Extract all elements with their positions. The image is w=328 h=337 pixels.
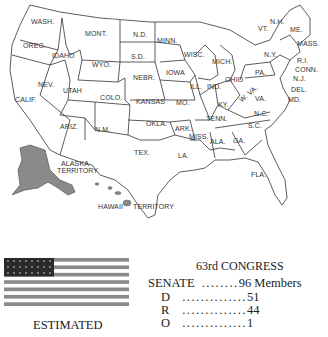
estimated-caption: ESTIMATED bbox=[33, 318, 102, 333]
label-conn: CONN. bbox=[295, 66, 318, 74]
senate-row-o: O ..............1 bbox=[161, 316, 253, 331]
label-mass: MASS. bbox=[297, 40, 319, 48]
label-md: MD. bbox=[288, 96, 301, 104]
label-fla: FLA. bbox=[251, 171, 266, 179]
label-kansas: KANSAS bbox=[136, 98, 165, 106]
label-mo: MO. bbox=[176, 99, 190, 107]
label-hawaii-territory: TERRITORY bbox=[133, 203, 174, 211]
label-pa: PA. bbox=[255, 69, 266, 77]
senate-label: SENATE bbox=[148, 276, 195, 290]
label-la: LA. bbox=[178, 152, 189, 160]
label-mich: MICH. bbox=[212, 58, 232, 66]
label-ill: ILL. bbox=[190, 83, 202, 91]
senate-value: 96 Members bbox=[239, 276, 302, 290]
label-ariz: ARIZ. bbox=[60, 123, 78, 131]
party-value: 1 bbox=[247, 316, 253, 330]
party-value: 51 bbox=[247, 290, 260, 304]
label-wash: WASH. bbox=[31, 18, 54, 26]
dot-leader: .............. bbox=[182, 303, 247, 317]
us-flag-48-stars bbox=[4, 258, 129, 306]
label-nh: N.H. bbox=[270, 18, 284, 26]
label-nd: N.D. bbox=[133, 31, 147, 39]
label-ind: IND. bbox=[207, 83, 221, 91]
label-mont: MONT. bbox=[85, 30, 107, 38]
senate-total: SENATE ........96 Members bbox=[148, 276, 302, 291]
label-iowa: IOWA bbox=[166, 69, 185, 77]
flag-canton bbox=[4, 258, 54, 277]
label-ark: ARK. bbox=[175, 125, 192, 133]
label-ny: N.Y. bbox=[264, 51, 277, 59]
label-va: VA. bbox=[255, 95, 266, 103]
dot-leader: ........ bbox=[202, 276, 239, 290]
label-ky: KY. bbox=[218, 101, 229, 109]
label-nev: NEV. bbox=[38, 81, 54, 89]
label-wyo: WYO. bbox=[92, 61, 111, 69]
label-minn: MINN. bbox=[157, 37, 177, 45]
party-value: 44 bbox=[247, 303, 260, 317]
label-ga: GA. bbox=[233, 137, 245, 145]
label-nj: N.J. bbox=[293, 75, 306, 83]
label-okla: OKLA. bbox=[146, 120, 167, 128]
label-idaho: IDAHO bbox=[52, 52, 75, 60]
label-me: ME. bbox=[290, 26, 303, 34]
label-del: DEL. bbox=[291, 86, 307, 94]
label-sc: S.C. bbox=[248, 122, 262, 130]
label-oreg: OREG. bbox=[23, 42, 46, 50]
party-label: O bbox=[161, 316, 173, 331]
dot-leader: .............. bbox=[182, 316, 247, 330]
label-hawaii: HAWAII bbox=[98, 203, 123, 211]
label-wisc: WISC. bbox=[184, 51, 205, 59]
label-nm: N.M. bbox=[95, 126, 110, 134]
congress-title: 63rd CONGRESS bbox=[196, 259, 284, 274]
dot-leader: .............. bbox=[182, 290, 247, 304]
label-tex: TEX. bbox=[134, 149, 150, 157]
label-nebr: NEBR. bbox=[133, 74, 155, 82]
label-ri: R.I. bbox=[297, 57, 308, 65]
label-tenn: TENN. bbox=[206, 115, 228, 123]
label-colo: COLO. bbox=[100, 94, 122, 102]
label-miss: MISS. bbox=[189, 133, 209, 141]
label-utah: UTAH bbox=[63, 87, 82, 95]
label-calif: CALIF. bbox=[15, 96, 37, 104]
label-vt: VT. bbox=[258, 25, 268, 33]
label-nc: N.C. bbox=[254, 110, 268, 118]
label-ohio: OHIO bbox=[225, 76, 243, 84]
label-ala: ALA. bbox=[210, 138, 226, 146]
label-alaska: ALASKA TERRITORY bbox=[57, 160, 93, 174]
label-sd: S.D. bbox=[131, 53, 145, 61]
